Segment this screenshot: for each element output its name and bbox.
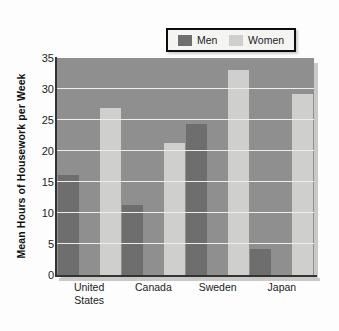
bar-japan-women — [292, 94, 313, 275]
legend-label-men: Men — [197, 35, 217, 46]
y-tick-label: 25 — [42, 115, 54, 126]
x-axis-tick-labels: United StatesCanadaSwedenJapan — [57, 281, 314, 321]
x-tick-label: Canada — [135, 281, 172, 294]
legend-swatch-men — [178, 35, 192, 46]
bar-japan-men — [250, 249, 271, 275]
gridline — [57, 119, 314, 120]
legend-entry-men: Men — [178, 35, 217, 46]
bar-canada-men — [122, 205, 143, 275]
y-axis-tick-labels: 05101520253035 — [29, 58, 54, 275]
legend-swatch-women — [229, 35, 243, 46]
bar-united-states-men — [58, 175, 79, 275]
bar-sweden-women — [228, 70, 249, 275]
y-axis-title-text: Mean Hours of Housework per Week — [15, 73, 27, 258]
y-tick-label: 35 — [42, 53, 54, 64]
gridline — [57, 243, 314, 244]
x-axis-line — [55, 275, 317, 277]
y-tick-label: 30 — [42, 84, 54, 95]
gridline — [57, 181, 314, 182]
legend-label-women: Women — [248, 35, 284, 46]
plot-area — [57, 58, 314, 275]
gridline — [57, 212, 314, 213]
x-tick-label: Japan — [268, 281, 297, 294]
x-tick-label: United States — [74, 281, 104, 307]
bar-canada-women — [164, 143, 185, 275]
y-tick-label: 10 — [42, 208, 54, 219]
x-tick-label: Sweden — [199, 281, 237, 294]
legend-entry-women: Women — [229, 35, 284, 46]
bar-chart-figure: Men Women Mean Hours of Housework per We… — [0, 0, 339, 331]
bar-united-states-women — [100, 108, 121, 275]
gridline — [57, 88, 314, 89]
y-tick-label: 5 — [48, 239, 54, 250]
gridline — [57, 150, 314, 151]
chart-legend: Men Women — [166, 28, 296, 52]
y-axis-title: Mean Hours of Housework per Week — [13, 58, 29, 274]
y-tick-label: 0 — [48, 270, 54, 281]
bar-sweden-men — [186, 124, 207, 275]
y-tick-label: 15 — [42, 177, 54, 188]
y-tick-label: 20 — [42, 146, 54, 157]
